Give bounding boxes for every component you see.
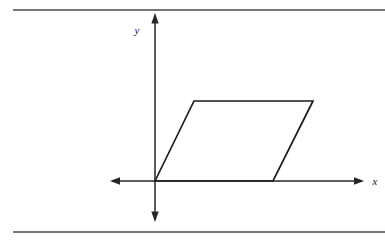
parallelogram-shape: [155, 101, 313, 181]
figure-container: y x: [0, 0, 385, 244]
coordinate-plane-diagram: y x: [0, 0, 385, 244]
x-axis-right-arrow-icon: [354, 177, 364, 185]
y-axis-down-arrow-icon: [151, 212, 158, 223]
y-axis-up-arrow-icon: [151, 13, 158, 24]
x-axis-label: x: [372, 175, 378, 187]
y-axis-label: y: [134, 24, 140, 36]
x-axis-left-arrow-icon: [110, 177, 120, 185]
